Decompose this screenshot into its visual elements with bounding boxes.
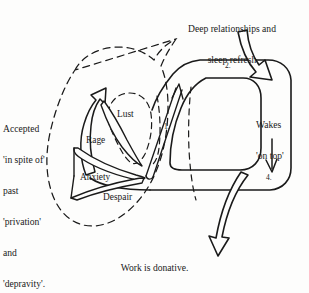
right-note: Wakes 'on top' [256,99,308,172]
left-note-line-2: 'in spite of' [3,155,69,165]
node-label-lust: Lust [117,109,134,119]
node-label-despair: Despair [103,192,132,202]
top-note-line-1: Deep relationships and [164,24,300,34]
rise-arrow-shaft-b [153,90,182,177]
left-note-line-3: past [3,186,69,196]
left-note-line-1: Accepted [3,124,69,134]
top-note-line-2: sleep refresh [164,55,300,65]
stage-marker-4: 4. [266,174,272,182]
despair-spike-stem [71,176,74,198]
rise-arrow-shaft-a [146,88,176,176]
stage-marker-2: 2. [225,62,231,70]
left-note-line-5: and [3,248,69,258]
top-note: Deep relationships and sleep refresh [164,3,300,76]
node-label-anxiety: Anxiety [80,172,110,182]
inner-loop-path [170,78,261,170]
left-note-line-4: 'privation' [3,217,69,227]
right-note-line-1: Wakes [256,120,308,130]
node-label-rage: Rage [86,135,105,145]
stage-marker-1: 1. [164,123,170,131]
bottom-caption: Work is donative. [0,263,309,273]
right-note-line-2: 'on top' [256,151,308,161]
dashed-inner-loop-curve [189,87,196,200]
rise-arrow-foot [146,176,153,179]
outflow-arrow [209,172,248,256]
left-note-line-6: 'depravity'. [3,279,69,289]
